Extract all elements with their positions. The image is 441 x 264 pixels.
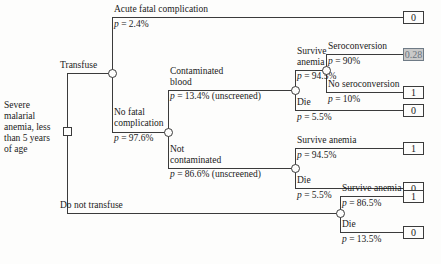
seroconversion-chance-node[interactable] <box>322 66 331 75</box>
terminal-acute-fatal[interactable]: 0 <box>403 11 424 24</box>
branch-label-not-contaminated: Not contaminated <box>170 144 234 165</box>
terminal-seroconversion[interactable]: 0.28 <box>403 48 424 61</box>
prob-seroconversion: p = 90% <box>328 56 360 67</box>
prob-not-contaminated: p = 86.6% (unscreened) <box>170 169 261 180</box>
terminal-die-contaminated[interactable]: 0 <box>403 104 424 117</box>
branch-label-no-fatal: No fatal complication <box>114 107 168 128</box>
branch-label-die-1: Die <box>297 97 311 108</box>
branch-label-die-2: Die <box>297 175 311 186</box>
terminal-survive-not-contaminated[interactable]: 1 <box>403 142 424 155</box>
acute-fatal-edge-line <box>112 17 403 18</box>
no-fatal-chance-node[interactable] <box>164 128 173 137</box>
die-3-edge-line <box>340 232 403 233</box>
prob-contaminated: p = 13.4% (unscreened) <box>170 91 261 102</box>
survive-anemia-3-edge-line <box>340 196 403 197</box>
not-contaminated-chance-node[interactable] <box>291 164 300 173</box>
branch-label-survive-anemia-2: Survive anemia <box>297 135 356 146</box>
branch-label-survive-anemia-3: Survive anemia <box>342 183 401 194</box>
branch-label-transfuse: Transfuse <box>60 60 97 71</box>
root-label: Severe malarial anemia, less than 5 year… <box>4 100 60 155</box>
transfuse-edge-line <box>67 73 112 74</box>
branch-label-contaminated: Contaminated blood <box>170 66 240 87</box>
branch-label-die-3: Die <box>342 219 356 230</box>
branch-label-no-seroconversion: No seroconversion <box>328 79 400 90</box>
root-decision-node[interactable] <box>63 127 72 136</box>
transfuse-chance-node[interactable] <box>108 69 117 78</box>
contaminated-chance-node[interactable] <box>291 86 300 95</box>
root-spine-line <box>67 73 68 214</box>
branch-label-seroconversion: Seroconversion <box>328 41 387 52</box>
prob-no-seroconversion: p = 10% <box>328 94 360 105</box>
die-1-edge-line <box>295 110 403 111</box>
branch-label-do-not-transfuse: Do not transfuse <box>60 200 123 211</box>
terminal-survive-no-transfuse[interactable]: 1 <box>403 190 424 203</box>
do-not-transfuse-edge-line <box>67 213 340 214</box>
prob-die-1: p = 5.5% <box>297 112 332 123</box>
prob-acute-fatal: p = 2.4% <box>114 19 149 30</box>
prob-die-3: p = 13.5% <box>342 234 381 245</box>
branch-label-acute-fatal: Acute fatal complication <box>114 4 208 15</box>
prob-survive-anemia-3: p = 86.5% <box>342 198 381 209</box>
terminal-die-no-transfuse[interactable]: 0 <box>403 226 424 239</box>
no-seroconversion-edge-line <box>326 92 403 93</box>
survive-anemia-2-edge-line <box>295 148 403 149</box>
terminal-no-seroconversion[interactable]: 1 <box>403 86 424 99</box>
decision-tree-diagram: Severe malarial anemia, less than 5 year… <box>0 0 441 264</box>
prob-survive-anemia-2: p = 94.5% <box>297 150 336 161</box>
do-not-transfuse-chance-node[interactable] <box>336 209 345 218</box>
prob-no-fatal: p = 97.6% <box>114 133 153 144</box>
prob-die-2: p = 5.5% <box>297 190 332 201</box>
